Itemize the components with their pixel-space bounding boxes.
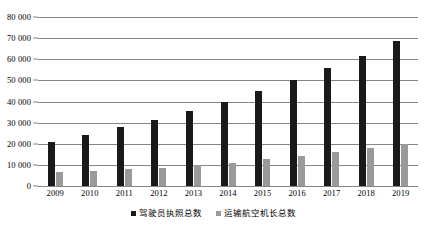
bar (186, 111, 193, 186)
bar-group (186, 17, 201, 186)
bar-chart: 010 00020 00030 00040 00050 00060 00070 … (0, 0, 426, 227)
bar-group (324, 17, 339, 186)
bar (367, 148, 374, 186)
legend-label: 运输航空机长总数 (224, 208, 296, 218)
bar (117, 127, 124, 186)
bar-group (221, 17, 236, 186)
bar (221, 102, 228, 187)
bar (401, 144, 408, 186)
y-axis-tick-label: 80 000 (7, 13, 31, 22)
y-axis-tick-label: 30 000 (7, 118, 31, 127)
bar (359, 56, 366, 186)
bar (90, 171, 97, 186)
y-axis-tick-label: 0 (27, 182, 31, 191)
x-axis-tick-label: 2019 (392, 188, 409, 199)
plot-area (38, 17, 418, 186)
bar-group (290, 17, 305, 186)
x-axis-tick-label: 2009 (47, 188, 64, 199)
gridline (38, 186, 418, 187)
legend-item: 运输航空机长总数 (216, 208, 296, 218)
bar (48, 142, 55, 186)
bar (298, 156, 305, 186)
bar-group (48, 17, 63, 186)
bar (332, 152, 339, 186)
bar (159, 168, 166, 186)
y-axis-tick-label: 50 000 (7, 76, 31, 85)
bar (229, 163, 236, 186)
bar-group (359, 17, 374, 186)
y-axis: 010 00020 00030 00040 00050 00060 00070 … (0, 17, 38, 186)
bar-group (151, 17, 166, 186)
bar (56, 172, 63, 186)
y-axis-tick-label: 60 000 (7, 55, 31, 64)
y-axis-tick-label: 40 000 (7, 97, 31, 106)
bar (263, 159, 270, 186)
x-axis-tick-label: 2012 (150, 188, 167, 199)
bar-group (82, 17, 97, 186)
x-axis-tick-label: 2013 (185, 188, 202, 199)
x-axis-tick-label: 2017 (323, 188, 340, 199)
bar (324, 68, 331, 186)
x-axis-tick-label: 2015 (254, 188, 271, 199)
bar-group (255, 17, 270, 186)
x-axis-tick-label: 2011 (116, 188, 133, 199)
bar (194, 165, 201, 186)
x-axis-tick-label: 2016 (288, 188, 305, 199)
legend-item: 驾驶员执照总数 (131, 208, 202, 218)
bar-group (393, 17, 408, 186)
y-axis-tick-label: 20 000 (7, 139, 31, 148)
x-axis: 2009201020112012201320142015201620172018… (38, 188, 418, 202)
bar (82, 135, 89, 186)
y-axis-tick-label: 70 000 (7, 34, 31, 43)
legend-swatch-icon (216, 211, 221, 216)
bar (290, 80, 297, 186)
bar-group (117, 17, 132, 186)
x-axis-tick-label: 2018 (357, 188, 374, 199)
x-axis-tick-label: 2010 (81, 188, 98, 199)
bar (151, 120, 158, 186)
chart-legend: 驾驶员执照总数运输航空机长总数 (0, 205, 426, 221)
legend-swatch-icon (131, 211, 136, 216)
legend-label: 驾驶员执照总数 (139, 208, 202, 218)
bar (255, 91, 262, 186)
bar (125, 169, 132, 186)
bar (393, 41, 400, 186)
x-axis-tick-label: 2014 (219, 188, 236, 199)
y-axis-tick-label: 10 000 (7, 160, 31, 169)
